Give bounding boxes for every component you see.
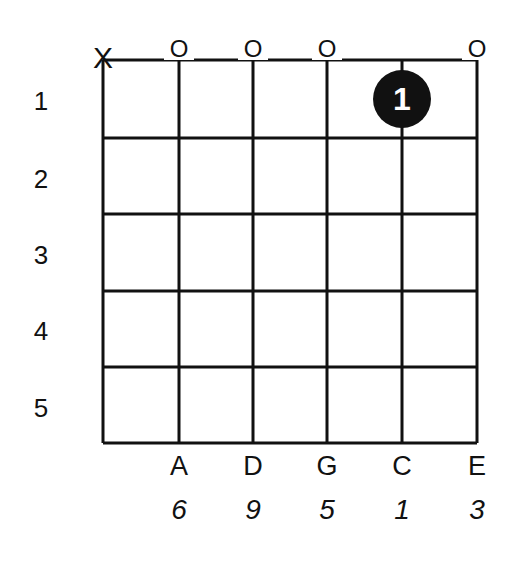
interval-label: 6 <box>159 494 199 526</box>
interval-label: 1 <box>382 494 422 526</box>
note-label: G <box>307 451 347 482</box>
interval-label: 3 <box>457 494 497 526</box>
open-string-marker: O <box>238 38 268 60</box>
note-label: D <box>233 451 273 482</box>
fret-number: 3 <box>26 240 56 271</box>
finger-dot: 1 <box>373 70 431 128</box>
open-string-marker: O <box>462 38 492 60</box>
muted-string-marker: X <box>88 47 118 69</box>
fretboard-grid <box>0 0 525 573</box>
note-label: A <box>159 451 199 482</box>
fret-number: 1 <box>26 86 56 117</box>
interval-label: 9 <box>233 494 273 526</box>
note-label: E <box>457 451 497 482</box>
open-string-marker: O <box>164 38 194 60</box>
fret-number: 5 <box>26 393 56 424</box>
fret-number: 4 <box>26 316 56 347</box>
note-label: C <box>382 451 422 482</box>
fret-number: 2 <box>26 164 56 195</box>
open-string-marker: O <box>312 38 342 60</box>
interval-label: 5 <box>307 494 347 526</box>
